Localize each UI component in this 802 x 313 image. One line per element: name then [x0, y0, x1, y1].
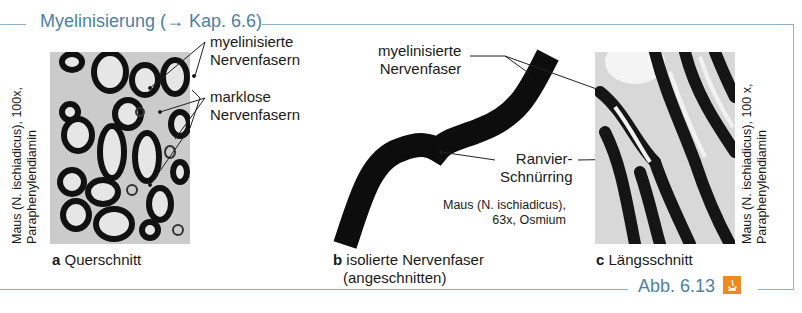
caption-text: Längsschnitt	[609, 251, 693, 268]
stain-line-1: Maus (N. ischiadicus),	[443, 198, 566, 213]
label-line: Nervenfaser	[378, 60, 461, 78]
stain-line-2: 63x, Osmium	[443, 213, 566, 228]
panel-letter: c	[596, 251, 604, 268]
label-node-of-ranvier: Ranvier- Schnürring	[500, 150, 573, 186]
stain-line-1: Maus (N. ischiadicus), 100 x,	[740, 84, 755, 244]
microscope-icon	[723, 276, 741, 294]
micrograph-longitudinal-section	[595, 52, 735, 244]
panel-c-stain-info: Maus (N. ischiadicus), 100 x, Paraphenyl…	[740, 84, 770, 244]
stain-line-2: Paraphenylendiamin	[755, 84, 770, 244]
figure-number: Abb. 6.13	[638, 276, 715, 297]
panel-b-stain-info: Maus (N. ischiadicus), 63x, Osmium	[443, 198, 566, 228]
panel-c-caption: c Längsschnitt	[596, 251, 693, 269]
panel-b-caption: b isolierte Nervenfaser (angeschnitten)	[333, 251, 484, 287]
label-line: Schnürring	[500, 168, 573, 186]
panel-letter: b	[333, 251, 342, 268]
longitudinal-section-image	[595, 52, 735, 244]
label-line: Ranvier-	[507, 150, 573, 168]
caption-text-2: (angeschnitten)	[333, 269, 484, 287]
caption-text: isolierte Nervenfaser	[346, 251, 484, 268]
label-myelinated-fiber: myelinisierte Nervenfaser	[378, 42, 461, 78]
label-line: myelinisierte	[378, 42, 461, 60]
